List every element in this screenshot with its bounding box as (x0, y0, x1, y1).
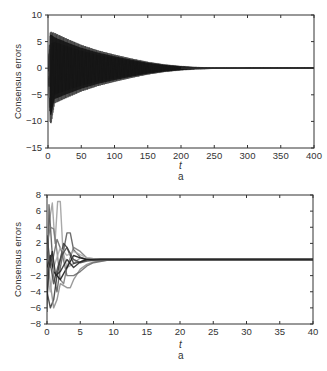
y-tick-label: 0 (13, 254, 41, 265)
top-chart (45, 15, 314, 148)
figure: Consensus errors t a 0501001502002503003… (0, 0, 327, 371)
y-tick-label: 0 (14, 62, 42, 73)
bottom-x-axis-label: t (179, 339, 182, 350)
y-tick-label: −8 (13, 318, 41, 329)
series-line-s8 (47, 247, 313, 291)
series-line-s5 (47, 255, 313, 307)
series-line-s4 (47, 243, 313, 308)
y-tick-label: 8 (13, 189, 41, 200)
y-tick-label: 2 (13, 237, 41, 248)
y-tick-label: 10 (14, 9, 42, 20)
y-tick-label: 6 (13, 205, 41, 216)
bottom-chart (44, 195, 313, 324)
y-tick-label: −4 (13, 286, 41, 297)
x-tick-label: 25 (198, 326, 228, 337)
top-y-axis-label: Consensus errors (12, 37, 23, 127)
top-x-axis-label: t (179, 160, 182, 171)
series-line-s3 (47, 227, 313, 283)
y-tick-label: −10 (14, 115, 42, 126)
y-tick-label: 5 (14, 36, 42, 47)
y-tick-label: −2 (13, 270, 41, 281)
top-panel-label: a (178, 171, 184, 182)
y-tick-label: −5 (14, 89, 42, 100)
x-tick-label: 100 (100, 150, 130, 161)
x-tick-label: 10 (99, 326, 129, 337)
series-line-s10 (47, 251, 313, 299)
plot-area (47, 201, 313, 311)
x-tick-label: 400 (299, 150, 327, 161)
y-tick-label: −15 (14, 142, 42, 153)
x-tick-label: 30 (232, 326, 262, 337)
x-tick-label: 20 (165, 326, 195, 337)
x-tick-label: 50 (66, 150, 96, 161)
x-tick-label: 5 (65, 326, 95, 337)
x-tick-label: 350 (266, 150, 296, 161)
plot-area (48, 32, 314, 123)
bottom-panel-label: a (178, 350, 184, 361)
x-tick-label: 150 (133, 150, 163, 161)
x-tick-label: 35 (265, 326, 295, 337)
x-tick-label: 15 (132, 326, 162, 337)
x-tick-label: 300 (233, 150, 263, 161)
y-tick-label: 4 (13, 221, 41, 232)
x-tick-label: 250 (199, 150, 229, 161)
x-tick-label: 40 (298, 326, 327, 337)
x-tick-label: 200 (166, 150, 196, 161)
plots-canvas (0, 0, 327, 371)
y-tick-label: −6 (13, 302, 41, 313)
